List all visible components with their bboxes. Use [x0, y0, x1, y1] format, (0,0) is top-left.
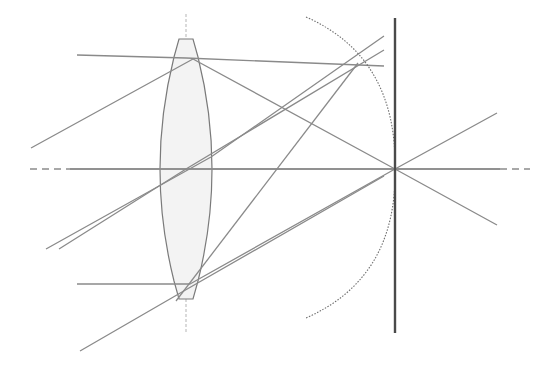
- lower-oblique-ray: [80, 176, 384, 351]
- top-parallel-ray: [77, 55, 384, 66]
- petzval-curvature-arc: [306, 17, 395, 318]
- lens-ray-diagram: [0, 0, 551, 370]
- upper-chief-ray: [46, 36, 384, 249]
- light-rays: [31, 36, 500, 351]
- top-oblique-ray: [31, 59, 497, 225]
- petzval-arc-path: [306, 17, 395, 318]
